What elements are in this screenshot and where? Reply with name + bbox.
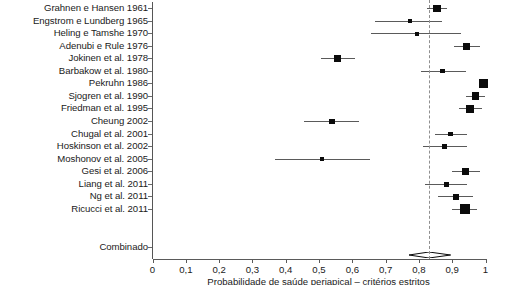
study-label: Moshonov et al. 2005 [0, 153, 148, 164]
study-marker [472, 92, 480, 100]
forest-plot: Grahnen e Hansen 1961Engstrom e Lundberg… [0, 0, 513, 291]
study-marker [453, 194, 459, 200]
x-axis-tick-label: 0 [150, 264, 155, 275]
x-axis-tick [186, 259, 187, 263]
study-marker [463, 43, 470, 50]
study-marker [334, 55, 342, 63]
study-label-column: Grahnen e Hansen 1961Engstrom e Lundberg… [0, 0, 148, 260]
study-marker [433, 5, 441, 13]
x-axis-tick-label: 0,9 [446, 264, 459, 275]
x-axis-tick-label: 0,6 [346, 264, 359, 275]
study-label: Gesi et al. 2006 [0, 165, 148, 176]
study-label: Barbakow et al. 1980 [0, 65, 148, 76]
study-marker [442, 144, 446, 148]
x-axis-tick [319, 259, 320, 263]
study-label: Ricucci et al. 2011 [0, 203, 148, 214]
study-label: Engstrom e Lundberg 1965 [0, 15, 148, 26]
study-label: Chugal et al. 2001 [0, 128, 148, 139]
study-marker [320, 157, 324, 161]
x-axis-tick [153, 259, 154, 263]
study-label: Adenubi e Rule 1976 [0, 40, 148, 51]
study-marker [444, 182, 449, 187]
x-axis-tick [352, 259, 353, 263]
reference-line [429, 0, 430, 259]
bottom-divider [0, 285, 513, 291]
study-label: Hoskinson et al. 2002 [0, 140, 148, 151]
x-axis-tick-label: 0,2 [212, 264, 225, 275]
study-marker [460, 204, 470, 214]
x-axis-tick-label: 0,8 [412, 264, 425, 275]
x-axis-tick [386, 259, 387, 263]
study-label: Friedman et al. 1995 [0, 102, 148, 113]
x-axis-tick [252, 259, 253, 263]
x-axis-tick-label: 0,4 [279, 264, 292, 275]
summary-label: Combinado [0, 241, 148, 252]
x-axis-tick [452, 259, 453, 263]
study-label: Ng et al. 2011 [0, 190, 148, 201]
study-marker [466, 105, 473, 112]
study-label: Jokinen et al. 1978 [0, 52, 148, 63]
study-label: Liang et al. 2011 [0, 178, 148, 189]
study-marker [408, 19, 412, 23]
study-label: Grahnen e Hansen 1961 [0, 2, 148, 13]
study-marker [448, 132, 453, 137]
x-axis-tick [219, 259, 220, 263]
y-axis-spine [152, 2, 153, 259]
study-label: Pekruhn 1986 [0, 77, 148, 88]
study-label: Cheung 2002 [0, 115, 148, 126]
study-marker [415, 32, 419, 36]
study-marker [479, 79, 488, 88]
study-marker [462, 168, 469, 175]
study-marker [440, 69, 444, 73]
x-axis-tick-label: 0,3 [246, 264, 259, 275]
x-axis-tick-label: 1 [483, 264, 488, 275]
x-axis-tick [486, 259, 487, 263]
x-axis-tick-label: 0,5 [312, 264, 325, 275]
x-axis-tick [286, 259, 287, 263]
study-marker [329, 119, 335, 125]
study-label: Heling e Tamshe 1970 [0, 27, 148, 38]
x-axis-tick-label: 0,1 [179, 264, 192, 275]
x-axis-tick-label: 0,7 [379, 264, 392, 275]
study-label: Sjogren et al. 1990 [0, 90, 148, 101]
x-axis-tick [419, 259, 420, 263]
